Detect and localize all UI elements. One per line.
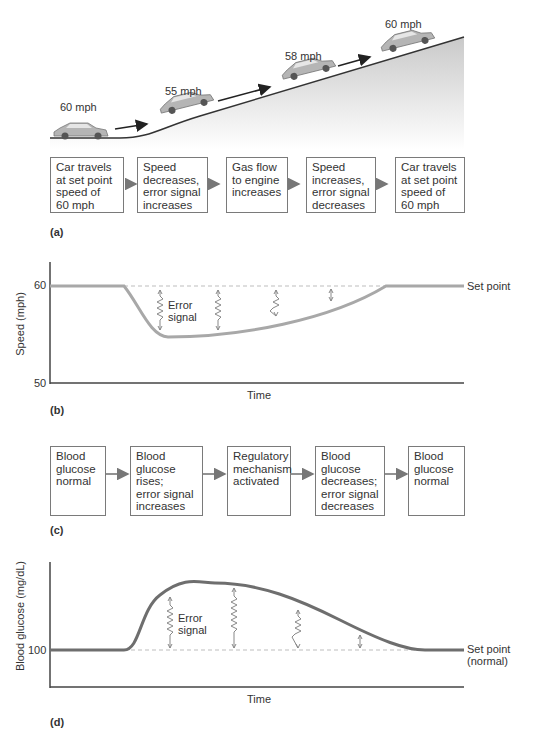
flow-text: error signal <box>143 186 202 199</box>
flow-box-c-1: Blood glucose normal <box>50 446 106 516</box>
flow-text: error signal <box>321 488 379 501</box>
glucose-curve <box>50 581 464 650</box>
x-axis-label-b: Time <box>247 389 271 401</box>
flow-text: Blood <box>321 450 379 463</box>
x-axis-label-d: Time <box>247 693 271 705</box>
flow-text: glucose <box>136 463 197 476</box>
flow-text: glucose <box>56 463 100 476</box>
flow-box-a-2: Speed decreases, error signal increases <box>137 157 208 213</box>
flow-text: Blood <box>56 450 100 463</box>
car-icon <box>54 123 108 140</box>
flow-box-c-5: Blood glucose normal <box>408 446 465 516</box>
speed-label: 55 mph <box>165 85 202 97</box>
flow-box-c-3: Regulatory mechanism activated <box>227 446 291 516</box>
flow-text: speed of <box>56 186 118 199</box>
chart-b <box>50 262 464 384</box>
flow-box-a-3: Gas flow to engine increases <box>226 157 288 213</box>
hill <box>50 37 464 150</box>
speed-label: 58 mph <box>285 50 322 62</box>
flow-text: activated <box>233 475 285 488</box>
flow-text: increases <box>232 186 282 199</box>
flow-text: Speed <box>143 161 202 174</box>
tick-50: 50 <box>34 377 46 389</box>
flow-text: Car travels <box>401 161 459 174</box>
flow-box-a-1: Car travels at set point speed of 60 mph <box>50 157 124 213</box>
flow-text: speed of <box>401 186 459 199</box>
flow-text: error signal <box>312 186 370 199</box>
panel-label-c: (c) <box>50 524 63 536</box>
panel-label-b: (b) <box>50 404 64 416</box>
flow-text: increases <box>143 199 202 212</box>
flow-text: decreases <box>321 500 379 513</box>
flow-text: normal <box>414 475 459 488</box>
flow-text: increases, <box>312 174 370 187</box>
speed-curve <box>50 286 464 337</box>
panel-label-d: (d) <box>50 716 64 728</box>
flow-text: Gas flow <box>232 161 282 174</box>
setpoint-label-b: Set point <box>467 280 510 292</box>
tick-60: 60 <box>34 279 46 291</box>
error-text: Error <box>178 612 207 624</box>
flow-text: increases <box>136 500 197 513</box>
flow-text: decreases <box>312 199 370 212</box>
flow-text: 60 mph <box>401 199 459 212</box>
flow-text: rises; <box>136 475 197 488</box>
setpoint-label-d: Set point (normal) <box>467 643 510 667</box>
flow-text: decreases; <box>321 475 379 488</box>
flow-text: Car travels <box>56 161 118 174</box>
panel-label-a: (a) <box>50 226 63 238</box>
flow-text: error signal <box>136 488 197 501</box>
chart-d <box>50 562 464 688</box>
error-text: signal <box>168 311 197 323</box>
flow-text: mechanism <box>233 463 285 476</box>
speed-label: 60 mph <box>385 18 422 30</box>
flow-box-a-5: Car travels at set point speed of 60 mph <box>395 157 465 213</box>
flow-text: 60 mph <box>56 199 118 212</box>
flow-text: Regulatory <box>233 450 285 463</box>
setpoint-text: Set point <box>467 643 510 655</box>
y-axis-label-d: Blood glucose (mg/dL) <box>14 556 26 676</box>
flow-text: normal <box>56 475 100 488</box>
y-axis-label-b: Speed (mph) <box>14 289 26 359</box>
flow-box-c-4: Blood glucose decreases; error signal de… <box>315 446 385 516</box>
flow-text: glucose <box>414 463 459 476</box>
flow-text: Blood <box>414 450 459 463</box>
error-signal-label-b: Error signal <box>168 299 197 323</box>
setpoint-text: (normal) <box>467 655 510 667</box>
speed-label: 60 mph <box>60 101 97 113</box>
flow-text: Speed <box>312 161 370 174</box>
error-text: Error <box>168 299 197 311</box>
tick-100: 100 <box>28 644 46 656</box>
error-text: signal <box>178 624 207 636</box>
flow-box-a-4: Speed increases, error signal decreases <box>306 157 376 213</box>
flow-text: Blood <box>136 450 197 463</box>
flow-text: to engine <box>232 174 282 187</box>
flow-text: decreases, <box>143 174 202 187</box>
error-signal-label-d: Error signal <box>178 612 207 636</box>
flow-text: at set point <box>401 174 459 187</box>
flow-text: at set point <box>56 174 118 187</box>
flow-text: glucose <box>321 463 379 476</box>
flow-box-c-2: Blood glucose rises; error signal increa… <box>130 446 203 516</box>
